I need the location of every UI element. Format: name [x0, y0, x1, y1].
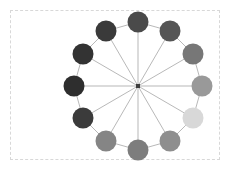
graph-node[interactable] — [96, 21, 117, 42]
graph-node[interactable] — [192, 76, 213, 97]
graph-node[interactable] — [160, 131, 181, 152]
figure-canvas — [0, 0, 230, 170]
graph-node[interactable] — [128, 140, 149, 161]
graph-node[interactable] — [73, 44, 94, 65]
graph-node[interactable] — [160, 21, 181, 42]
graph-node[interactable] — [183, 44, 204, 65]
graph-node[interactable] — [96, 131, 117, 152]
graph-node[interactable] — [183, 108, 204, 129]
graph-node[interactable] — [64, 76, 85, 97]
wheel-graph-plot — [0, 0, 230, 170]
graph-node[interactable] — [73, 108, 94, 129]
graph-hub-node[interactable] — [136, 84, 140, 88]
graph-node[interactable] — [128, 12, 149, 33]
